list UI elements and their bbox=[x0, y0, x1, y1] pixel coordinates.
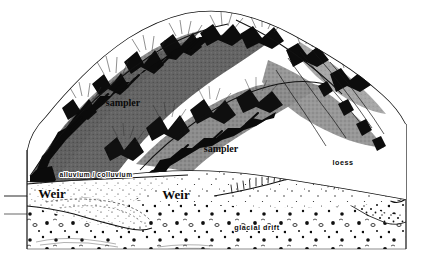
geologic-block-diagram: sampler sampler Weir Weir alluvium / col… bbox=[0, 0, 433, 262]
label-loess: loess bbox=[332, 158, 353, 167]
label-weir-right: Weir bbox=[162, 187, 190, 202]
label-alluvium-colluvium: alluvium / colluvium bbox=[59, 171, 132, 178]
label-sampler-lower: sampler bbox=[204, 143, 239, 154]
label-sampler-upper: sampler bbox=[106, 97, 141, 108]
label-glacial-drift: glacial drift bbox=[234, 223, 280, 232]
block-diagram-canvas: sampler sampler Weir Weir alluvium / col… bbox=[0, 0, 433, 262]
label-weir-left: Weir bbox=[38, 186, 66, 201]
